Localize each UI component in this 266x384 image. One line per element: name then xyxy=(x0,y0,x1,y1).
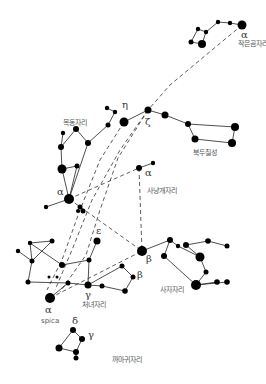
big-dipper-line xyxy=(165,115,188,124)
virgo-star xyxy=(26,280,31,285)
bootes-star xyxy=(113,110,117,114)
dashed-guide-line xyxy=(69,168,139,199)
bootes-star xyxy=(75,164,80,169)
virgo-star xyxy=(100,284,105,289)
big-dipper-star xyxy=(162,112,169,119)
leo-star xyxy=(167,237,173,243)
virgo-star xyxy=(16,249,20,253)
greek-letter-label: η xyxy=(122,100,128,110)
greek-letter-label: β xyxy=(137,270,143,280)
corvus-label: 까마귀자리 xyxy=(112,357,142,364)
bootes-star xyxy=(85,140,91,146)
ursa-minor-line xyxy=(206,22,218,32)
bootes-line xyxy=(88,125,108,143)
leo-star xyxy=(191,280,201,290)
bootes-star xyxy=(64,194,74,204)
big-dipper-star xyxy=(120,118,129,127)
big-dipper-star xyxy=(192,136,199,143)
big-dipper-line xyxy=(195,139,232,143)
virgo-star xyxy=(87,258,92,263)
virgo-star xyxy=(28,241,32,245)
ursa-minor-label: 작은곰자리 xyxy=(238,41,266,48)
leo-star xyxy=(214,279,220,285)
virgo-line xyxy=(28,282,68,283)
leo-star xyxy=(225,244,230,249)
virgo-line xyxy=(88,260,89,285)
virgo-line xyxy=(62,260,89,265)
leo-line xyxy=(164,256,196,285)
big-dipper-star xyxy=(185,121,191,127)
bootes-star xyxy=(44,205,48,209)
ursa-minor-star xyxy=(216,20,220,24)
canes-venatici-star xyxy=(151,161,155,165)
ursa-minor-star xyxy=(204,30,208,34)
corvus-star xyxy=(70,327,76,333)
ursa-minor-star xyxy=(196,27,200,31)
dashed-guide-line xyxy=(148,25,242,110)
leo-label: 사자자리 xyxy=(160,287,184,294)
big-dipper-line xyxy=(188,124,235,127)
virgo-star xyxy=(45,293,55,303)
leo-star xyxy=(196,253,205,262)
greek-letter-label: α xyxy=(241,30,248,40)
virgo-star xyxy=(131,275,136,280)
virgo-line xyxy=(30,243,32,261)
greek-letter-label: ζ xyxy=(145,117,150,127)
bootes-star xyxy=(105,106,109,110)
star-chart xyxy=(0,0,266,384)
bootes-label: 목동자리 xyxy=(63,120,87,127)
corvus-star xyxy=(73,349,79,355)
virgo-star xyxy=(85,282,92,289)
canes-venatici-label: 사냥개자리 xyxy=(147,188,177,195)
virgo-star xyxy=(50,239,55,244)
virgo-line xyxy=(18,251,32,261)
greek-letter-label: α xyxy=(145,168,152,178)
bootes-line xyxy=(69,166,77,199)
virgo-star xyxy=(59,262,65,268)
coma-star xyxy=(81,209,86,214)
greek-letter-label: γ xyxy=(85,290,91,300)
virgo-line xyxy=(30,243,62,265)
big-dipper-star xyxy=(231,123,239,131)
big-dipper-star xyxy=(145,107,152,114)
virgo-line xyxy=(28,261,32,282)
virgo-star xyxy=(120,264,125,269)
corvus-star xyxy=(74,356,79,361)
leo-line xyxy=(186,241,208,245)
greek-letter-label: γ xyxy=(88,330,94,340)
virgo-line xyxy=(30,241,52,243)
virgo-star xyxy=(122,288,128,294)
greek-letter-label: α xyxy=(45,305,52,315)
canes-venatici-star xyxy=(136,165,142,171)
leo-star xyxy=(176,244,180,248)
leo-star xyxy=(204,270,209,275)
corvus-star xyxy=(79,336,85,342)
virgo-star xyxy=(48,276,51,279)
dashed-guide-line xyxy=(50,251,142,298)
ursa-minor-star xyxy=(189,40,194,45)
leo-star xyxy=(205,238,211,244)
leo-star xyxy=(161,253,167,259)
star-name-label: spica xyxy=(41,318,59,325)
bootes-line xyxy=(69,143,88,199)
greek-letter-label: β xyxy=(146,254,152,264)
leo-star xyxy=(183,242,189,248)
leo-star xyxy=(224,279,230,285)
corvus-star xyxy=(56,345,63,352)
big-dipper-label: 북두칠성 xyxy=(193,150,217,157)
virgo-star xyxy=(94,238,101,245)
greek-letter-label: ε xyxy=(96,226,101,236)
virgo-star xyxy=(56,276,59,279)
virgo-label: 처녀자리 xyxy=(82,302,106,309)
virgo-line xyxy=(88,266,122,285)
greek-letter-label: α xyxy=(57,187,64,197)
ursa-minor-star xyxy=(228,21,232,25)
coma-star xyxy=(76,209,80,213)
bootes-star xyxy=(58,144,64,150)
dashed-guide-line xyxy=(139,168,142,251)
bootes-star xyxy=(58,165,67,174)
bootes-star xyxy=(106,123,111,128)
virgo-star xyxy=(66,281,71,286)
guide-dashed-lines xyxy=(47,25,242,298)
ursa-minor-star xyxy=(198,40,206,48)
